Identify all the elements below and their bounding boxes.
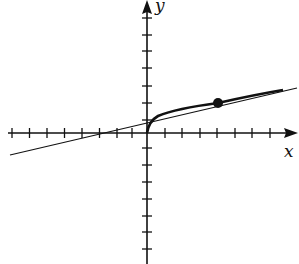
- graph: x y: [0, 0, 299, 264]
- tangent-point: [213, 98, 223, 108]
- tangent-line: [10, 88, 297, 155]
- y-axis-arrow-icon: [142, 0, 152, 14]
- graph-svg: [0, 0, 299, 264]
- x-axis-label: x: [284, 141, 294, 161]
- x-axis-arrow-icon: [284, 128, 298, 138]
- y-axis-label: y: [155, 0, 165, 15]
